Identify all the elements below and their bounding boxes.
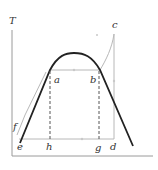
point-label-f: f [12, 121, 19, 132]
process-b-c [100, 34, 114, 70]
point-label-g: g [95, 142, 101, 153]
process-e-f-a [17, 72, 46, 135]
ts-diagram: T a b c d e f g h [0, 0, 158, 170]
y-axis-label: T [9, 15, 17, 26]
flow-arrows [73, 34, 115, 140]
point-label-c: c [112, 19, 118, 30]
point-label-a: a [54, 74, 60, 85]
point-label-d: d [110, 141, 116, 152]
arrow-marker-ab [73, 69, 75, 71]
point-label-h: h [46, 141, 52, 152]
point-label-b: b [90, 74, 96, 85]
arrow-marker-dh [81, 138, 83, 140]
arrow-marker-bc [96, 34, 98, 36]
arrow-marker-cd [113, 80, 115, 82]
point-label-e: e [17, 141, 23, 152]
saturation-dome [20, 53, 133, 146]
